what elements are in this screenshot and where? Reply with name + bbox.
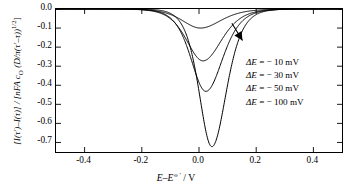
- y-tick-label: 0.0: [24, 2, 52, 12]
- legend-item-2-symbol: ΔE: [246, 83, 257, 93]
- y-tick-label: -0.1: [24, 21, 52, 31]
- legend-item-3-symbol: ΔE: [246, 97, 257, 107]
- y-tick-label: -0.2: [24, 40, 52, 50]
- y-axis-label-nfa: nFA c: [12, 75, 22, 96]
- x-axis-label-unit: / V: [181, 172, 195, 183]
- x-tick-label-group: -0.4-0.20.00.20.4: [0, 155, 352, 171]
- legend-item-2-value: = − 50 mV: [257, 83, 299, 93]
- legend-item-2: ΔE = − 50 mV: [246, 82, 304, 95]
- legend-item-1-symbol: ΔE: [246, 70, 257, 80]
- y-axis-label-superscript: 1/2: [10, 21, 17, 29]
- x-tick-label: -0.4: [64, 155, 104, 165]
- legend-item-0-value: = − 10 mV: [257, 57, 299, 67]
- y-tick-label: -0.5: [24, 97, 52, 107]
- legend-item-3: ΔE = − 100 mV: [246, 96, 304, 109]
- x-tick-label: 0.4: [292, 155, 332, 165]
- y-tick-label: -0.3: [24, 59, 52, 69]
- y-tick-label: -0.4: [24, 78, 52, 88]
- figure: [I(τ′)–I(τ)] / [nFA cO (D/π(τ′–τ))1/2] 0…: [0, 0, 352, 195]
- legend-item-0-symbol: ΔE: [246, 57, 257, 67]
- x-tick-label: 0.2: [235, 155, 275, 165]
- legend-item-1-value: = − 30 mV: [257, 70, 299, 80]
- x-axis-label-text: E–E: [157, 172, 174, 183]
- x-tick-label: -0.2: [121, 155, 161, 165]
- y-tick-label: -0.6: [24, 116, 52, 126]
- legend-item-1: ΔE = − 30 mV: [246, 69, 304, 82]
- legend: ΔE = − 10 mV ΔE = − 30 mV ΔE = − 50 mV Δ…: [246, 56, 304, 109]
- legend-item-3-value: = − 100 mV: [257, 97, 304, 107]
- x-tick-label: 0.0: [178, 155, 218, 165]
- x-axis-label-superscript: ⦵′: [173, 171, 181, 179]
- y-axis-label-close: ]: [12, 18, 22, 21]
- legend-item-0: ΔE = − 10 mV: [246, 56, 304, 69]
- y-tick-label: -0.7: [24, 135, 52, 145]
- y-axis-label-rest: (D/π(τ′–τ)): [12, 29, 22, 70]
- x-axis-label: E–E⦵′ / V: [0, 171, 352, 183]
- y-axis-label-numerator: [I(τ′)–I(τ)] / [: [12, 96, 22, 145]
